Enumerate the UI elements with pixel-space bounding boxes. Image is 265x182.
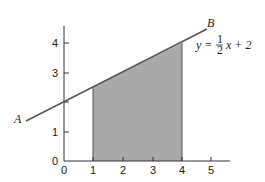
svg-text:2: 2 (217, 43, 223, 57)
equation-label: y = 1 2 x + 2 (195, 32, 251, 57)
x-tick-4: 4 (179, 164, 185, 176)
y-tick-0: 0 (52, 155, 58, 167)
y-tick-1: 1 (52, 126, 58, 138)
y-ticks (64, 43, 69, 132)
x-tick-2: 2 (120, 164, 126, 176)
x-tick-1: 1 (90, 164, 96, 176)
svg-text:=: = (205, 38, 212, 52)
y-tick-4: 4 (52, 37, 58, 49)
x-tick-5: 5 (208, 164, 214, 176)
point-a-label: A (13, 112, 22, 126)
svg-text:x + 2: x + 2 (225, 38, 251, 52)
x-tick-0: 0 (61, 164, 67, 176)
svg-text:y: y (195, 38, 202, 52)
y-tick-3: 3 (52, 67, 58, 79)
point-b-label: B (207, 16, 215, 30)
shaded-area (93, 43, 182, 161)
chart: 0 1 2 3 4 5 0 1 3 4 A B y = 1 2 x + 2 (0, 0, 265, 182)
x-tick-3: 3 (150, 164, 156, 176)
